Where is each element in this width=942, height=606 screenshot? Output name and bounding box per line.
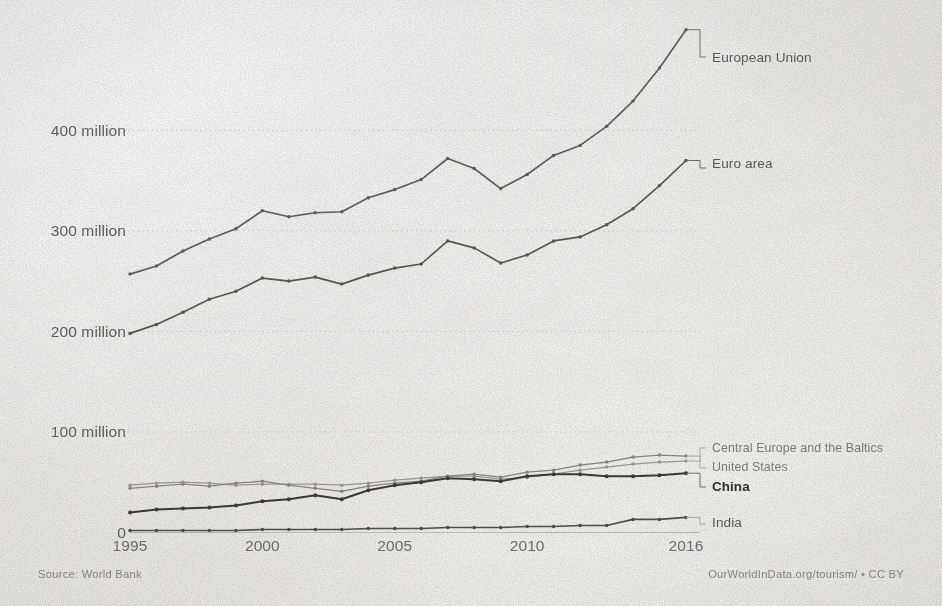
- data-point: [472, 526, 476, 530]
- data-point: [367, 484, 371, 488]
- series-label-china[interactable]: China: [712, 479, 750, 494]
- data-point: [605, 460, 609, 464]
- data-point: [155, 481, 159, 485]
- data-point: [261, 209, 265, 213]
- data-point: [525, 470, 529, 474]
- data-point: [552, 472, 556, 476]
- data-point: [181, 482, 185, 486]
- data-point: [314, 275, 318, 279]
- data-point: [314, 211, 318, 215]
- data-point: [128, 483, 132, 487]
- data-point: [314, 487, 318, 491]
- data-point: [181, 249, 185, 253]
- data-point: [261, 276, 265, 280]
- chart-canvas: 0100 million200 million300 million400 mi…: [0, 0, 942, 606]
- data-point: [605, 223, 609, 227]
- data-point: [393, 188, 397, 192]
- data-point: [234, 503, 238, 507]
- data-point: [261, 482, 265, 486]
- x-axis-ticks: 19952000200520102016: [113, 537, 704, 554]
- data-point: [155, 264, 159, 268]
- data-point: [605, 465, 609, 469]
- y-tick-label-400: 400 million: [51, 122, 126, 139]
- series-group: [128, 28, 688, 532]
- series-united-states: [128, 453, 688, 493]
- data-point: [393, 483, 397, 487]
- data-point: [367, 196, 371, 200]
- data-point: [208, 481, 212, 485]
- data-point: [181, 311, 185, 315]
- data-point: [340, 490, 344, 494]
- data-point: [419, 480, 423, 484]
- label-leader-lines: [686, 30, 706, 524]
- data-point: [287, 215, 291, 219]
- leader-line: [686, 473, 706, 487]
- series-label-euro-area[interactable]: Euro area: [712, 156, 773, 171]
- data-point: [658, 66, 662, 70]
- leader-line: [686, 161, 706, 169]
- series-european-union: [128, 28, 688, 276]
- series-label-central-europe-and-the-baltics[interactable]: Central Europe and the Baltics: [712, 441, 883, 455]
- data-point: [366, 488, 370, 492]
- data-point: [446, 476, 450, 480]
- data-point: [287, 279, 291, 283]
- data-point: [128, 510, 132, 514]
- data-point: [234, 227, 238, 231]
- y-tick-label-200: 200 million: [51, 323, 126, 340]
- x-tick-label-1995: 1995: [113, 537, 148, 554]
- data-point: [208, 529, 212, 533]
- data-point: [605, 524, 609, 528]
- data-point: [472, 167, 476, 171]
- data-point: [367, 481, 371, 485]
- leader-line: [686, 30, 706, 57]
- x-tick-label-2005: 2005: [377, 537, 412, 554]
- data-point: [446, 239, 450, 243]
- data-point: [631, 99, 635, 103]
- data-point: [419, 178, 423, 182]
- data-point: [128, 487, 132, 491]
- data-point: [525, 253, 529, 257]
- data-point: [367, 527, 371, 531]
- source-note: Source: World Bank: [38, 568, 142, 580]
- data-point: [314, 528, 318, 532]
- data-point: [367, 273, 371, 277]
- leader-line: [686, 456, 706, 468]
- data-point: [658, 460, 662, 464]
- series-label-european-union[interactable]: European Union: [712, 50, 812, 65]
- data-point: [631, 474, 635, 478]
- data-point: [234, 529, 238, 533]
- data-point: [234, 481, 238, 485]
- data-point: [340, 497, 344, 501]
- data-point: [552, 239, 556, 243]
- y-tick-label-300: 300 million: [51, 222, 126, 239]
- x-tick-label-2010: 2010: [510, 537, 545, 554]
- data-point: [578, 235, 582, 239]
- data-point: [499, 261, 503, 265]
- data-point: [155, 323, 159, 327]
- data-point: [419, 476, 423, 480]
- series-label-united-states[interactable]: United States: [712, 460, 788, 474]
- leader-line: [686, 517, 706, 524]
- data-point: [499, 526, 503, 530]
- series-label-india[interactable]: India: [712, 515, 742, 530]
- data-point: [340, 282, 344, 286]
- data-point: [631, 518, 635, 522]
- data-point: [260, 499, 264, 503]
- series-india: [128, 516, 688, 533]
- data-point: [578, 144, 582, 148]
- data-point: [605, 474, 609, 478]
- gridlines: [128, 130, 700, 432]
- data-point: [658, 518, 662, 522]
- data-point: [631, 207, 635, 211]
- data-point: [155, 529, 159, 533]
- data-point: [261, 528, 265, 532]
- data-point: [472, 472, 476, 476]
- series-line: [130, 30, 686, 274]
- data-point: [578, 468, 582, 472]
- x-tick-label-2000: 2000: [245, 537, 280, 554]
- series-line: [130, 455, 686, 491]
- data-point: [578, 472, 582, 476]
- data-point: [552, 525, 556, 529]
- data-point: [393, 478, 397, 482]
- data-point: [261, 479, 265, 483]
